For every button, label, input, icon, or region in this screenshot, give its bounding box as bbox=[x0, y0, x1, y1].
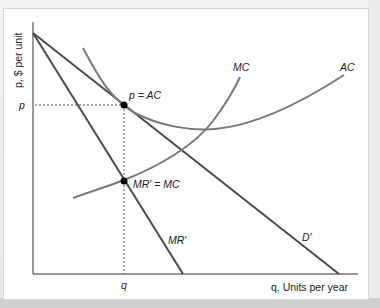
x-axis-label: q, Units per year bbox=[271, 281, 349, 293]
mc-label: MC bbox=[233, 61, 250, 73]
ac-label: AC bbox=[339, 61, 355, 73]
economics-diagram: p, $ per unit p q q, Units per year p = … bbox=[0, 0, 380, 308]
q-tick-label: q bbox=[121, 279, 127, 291]
p-tick-label: p bbox=[18, 99, 25, 111]
y-axis-label: p, $ per unit bbox=[12, 32, 24, 88]
demand-label: D′ bbox=[302, 231, 313, 243]
p-equals-ac-label: p = AC bbox=[128, 89, 161, 101]
marginal-revenue-curve bbox=[33, 33, 183, 274]
mr-mc-intersection-point bbox=[121, 178, 128, 185]
average-cost-curve bbox=[83, 48, 344, 129]
tangency-point bbox=[121, 102, 128, 109]
mr-equals-mc-label: MR′ = MC bbox=[133, 178, 180, 190]
mr-label: MR′ bbox=[168, 234, 187, 246]
